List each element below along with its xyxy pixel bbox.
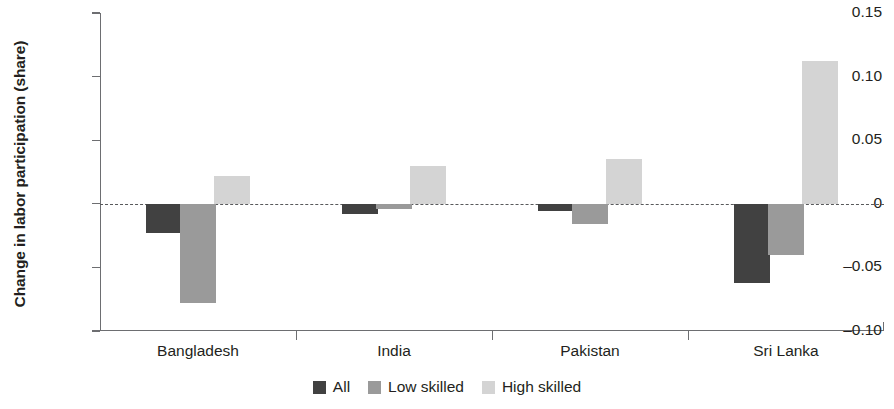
y-axis-tick-label: –0.05 xyxy=(808,257,894,275)
y-axis-tick xyxy=(92,12,100,13)
legend-label: All xyxy=(333,378,350,396)
legend-swatch-icon xyxy=(482,381,495,394)
x-axis-group-tick xyxy=(492,331,493,340)
bar-sri-lanka-high-skilled xyxy=(802,61,838,203)
bar-sri-lanka-all xyxy=(734,204,770,283)
y-axis-tick xyxy=(92,140,100,141)
legend-item-high-skilled: High skilled xyxy=(482,378,581,396)
y-axis-title: Change in labor participation (share) xyxy=(11,4,29,344)
legend-swatch-icon xyxy=(368,381,381,394)
bar-pakistan-high-skilled xyxy=(606,159,642,204)
y-axis-tick xyxy=(92,330,100,331)
legend-label: High skilled xyxy=(502,378,581,396)
y-axis-tick xyxy=(92,76,100,77)
x-axis-group-tick xyxy=(688,331,689,340)
x-axis-label-pakistan: Pakistan xyxy=(560,342,619,360)
x-axis-label-sri-lanka: Sri Lanka xyxy=(753,342,818,360)
bar-india-all xyxy=(342,204,378,214)
x-axis-label-india: India xyxy=(377,342,411,360)
legend-item-all: All xyxy=(313,378,350,396)
legend-swatch-icon xyxy=(313,381,326,394)
y-axis-tick xyxy=(92,203,100,204)
bar-bangladesh-all xyxy=(146,204,182,233)
bar-pakistan-all xyxy=(538,204,574,212)
bar-india-low-skilled xyxy=(376,204,412,209)
bar-sri-lanka-low-skilled xyxy=(768,204,804,255)
y-axis-tick-label: 0.15 xyxy=(808,3,894,21)
bar-india-high-skilled xyxy=(410,166,446,204)
legend-item-low-skilled: Low skilled xyxy=(368,378,464,396)
legend-label: Low skilled xyxy=(388,378,464,396)
x-axis-group-tick xyxy=(296,331,297,340)
bar-bangladesh-high-skilled xyxy=(214,176,250,204)
y-axis-line xyxy=(100,13,101,331)
x-axis-label-bangladesh: Bangladesh xyxy=(157,342,239,360)
bar-bangladesh-low-skilled xyxy=(180,204,216,303)
bar-pakistan-low-skilled xyxy=(572,204,608,224)
bar-chart-figure: Change in labor participation (share) 0.… xyxy=(0,0,894,409)
y-axis-tick-label: –0.10 xyxy=(808,321,894,339)
y-axis-tick xyxy=(92,267,100,268)
chart-legend: AllLow skilledHigh skilled xyxy=(0,378,894,396)
